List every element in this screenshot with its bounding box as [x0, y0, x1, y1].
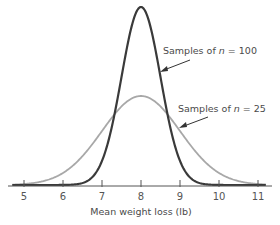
x-tick-label: 6	[60, 191, 66, 202]
x-tick-label: 11	[252, 191, 265, 202]
x-tick-label: 8	[138, 191, 144, 202]
arrow-n25	[179, 117, 208, 128]
annotation-n100: Samples of n = 100	[163, 45, 257, 56]
annotation-n25: Samples of n = 25	[178, 103, 266, 114]
curves	[12, 7, 265, 185]
x-tick-label: 10	[213, 191, 226, 202]
x-axis-label: Mean weight loss (lb)	[90, 206, 191, 217]
x-tick-label: 7	[99, 191, 105, 202]
sampling-distribution-chart: 567891011 Mean weight loss (lb) Samples …	[0, 0, 280, 225]
arrow-n100	[160, 60, 190, 72]
x-tick-label: 9	[177, 191, 183, 202]
x-tick-label: 5	[21, 191, 27, 202]
x-axis-ticks: 567891011	[21, 180, 265, 202]
